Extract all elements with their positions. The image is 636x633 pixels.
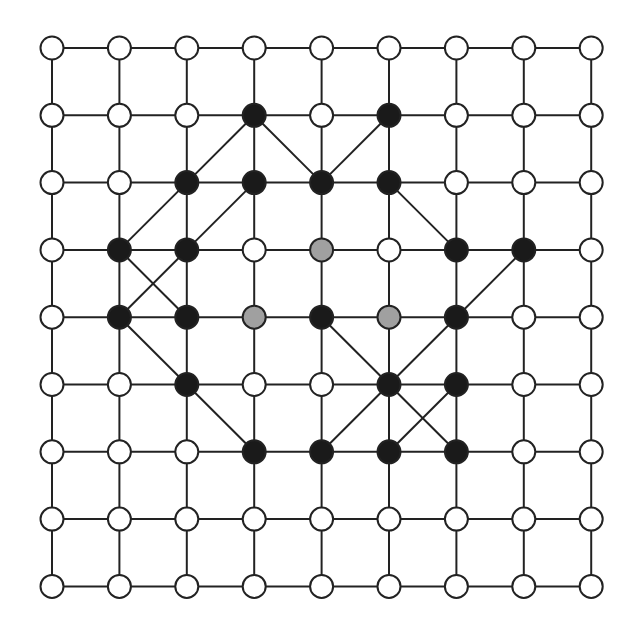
white-node [310, 104, 333, 127]
white-node [512, 37, 535, 60]
white-node [512, 575, 535, 598]
diagonal-edge [187, 115, 254, 182]
black-node [445, 306, 468, 329]
white-node [243, 37, 266, 60]
white-node [512, 104, 535, 127]
black-node [108, 306, 131, 329]
white-node [108, 508, 131, 531]
black-node [378, 440, 401, 463]
black-node [175, 306, 198, 329]
white-node [243, 373, 266, 396]
black-node [108, 238, 131, 261]
white-node [512, 373, 535, 396]
white-node [41, 508, 64, 531]
white-node [378, 238, 401, 261]
diagonal-edge [119, 183, 186, 250]
black-node [243, 171, 266, 194]
white-node [175, 440, 198, 463]
diagonal-edge [456, 250, 523, 317]
white-node [108, 37, 131, 60]
white-node [378, 575, 401, 598]
gray-node [310, 238, 333, 261]
white-node [580, 37, 603, 60]
white-node [580, 171, 603, 194]
white-node [310, 575, 333, 598]
white-node [41, 171, 64, 194]
white-node [41, 306, 64, 329]
nodes [41, 37, 603, 598]
white-node [108, 171, 131, 194]
white-node [445, 171, 468, 194]
white-node [41, 373, 64, 396]
white-node [310, 37, 333, 60]
white-node [580, 306, 603, 329]
black-node [243, 440, 266, 463]
white-node [580, 373, 603, 396]
black-node [378, 171, 401, 194]
white-node [378, 508, 401, 531]
black-node [378, 104, 401, 127]
black-node [445, 238, 468, 261]
diagonal-edge [389, 317, 456, 384]
diagonal-edge [322, 317, 389, 384]
black-node [310, 171, 333, 194]
gray-node [378, 306, 401, 329]
black-node [378, 373, 401, 396]
diagonal-edge [389, 183, 456, 250]
white-node [41, 440, 64, 463]
white-node [512, 508, 535, 531]
black-node [445, 440, 468, 463]
white-node [243, 238, 266, 261]
diagonal-edge [187, 385, 254, 452]
diagonal-edge [187, 183, 254, 250]
gray-node [243, 306, 266, 329]
black-node [175, 238, 198, 261]
diagonal-edge [322, 115, 389, 182]
lattice-diagram [0, 0, 636, 633]
white-node [580, 238, 603, 261]
diagonal-edge [322, 385, 389, 452]
white-node [445, 508, 468, 531]
white-node [580, 508, 603, 531]
white-node [41, 104, 64, 127]
white-node [108, 373, 131, 396]
white-node [243, 575, 266, 598]
white-node [175, 575, 198, 598]
white-node [512, 440, 535, 463]
white-node [445, 37, 468, 60]
white-node [41, 238, 64, 261]
black-node [175, 373, 198, 396]
diagonal-edge [254, 115, 321, 182]
white-node [310, 508, 333, 531]
white-node [41, 37, 64, 60]
white-node [175, 37, 198, 60]
white-node [310, 373, 333, 396]
black-node [512, 238, 535, 261]
white-node [445, 575, 468, 598]
white-node [108, 440, 131, 463]
white-node [41, 575, 64, 598]
white-node [108, 104, 131, 127]
black-node [310, 306, 333, 329]
white-node [175, 508, 198, 531]
black-node [445, 373, 468, 396]
white-node [175, 104, 198, 127]
white-node [512, 171, 535, 194]
white-node [445, 104, 468, 127]
diagonal-edge [119, 317, 186, 384]
white-node [108, 575, 131, 598]
white-node [580, 440, 603, 463]
black-node [175, 171, 198, 194]
white-node [512, 306, 535, 329]
white-node [580, 575, 603, 598]
white-node [243, 508, 266, 531]
white-node [580, 104, 603, 127]
black-node [310, 440, 333, 463]
black-node [243, 104, 266, 127]
white-node [378, 37, 401, 60]
